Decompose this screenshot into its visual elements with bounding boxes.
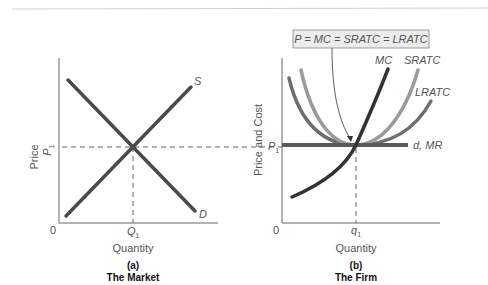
demand-curve (68, 80, 195, 211)
arrow-head-icon (347, 136, 353, 142)
origin-label: 0 (50, 224, 56, 236)
x-axis-label: Quantity (336, 242, 377, 254)
p1-label: P1 (41, 144, 55, 155)
firm-chart: P = MC = SRATC = LRATC MC SRATC LRATC d,… (252, 30, 450, 283)
caption-letter: (a) (127, 260, 139, 271)
q1-label: q1 (351, 224, 361, 238)
caption-letter: (b) (350, 260, 363, 271)
market-chart: S D Price P1 0 Q1 Quantity (a) The Marke… (28, 58, 282, 283)
origin-label: 0 (273, 224, 279, 236)
y-axis-label: Price (28, 144, 40, 169)
y-axis-label: Price and Cost (252, 104, 264, 176)
figure: S D Price P1 0 Q1 Quantity (a) The Marke… (0, 0, 488, 285)
lratc-label: LRATC (415, 86, 450, 98)
annotation-arrow (332, 48, 351, 140)
caption-title: The Firm (335, 272, 377, 283)
caption-title: The Market (107, 272, 160, 283)
mc-label: MC (375, 54, 392, 66)
sratc-label: SRATC (404, 54, 441, 66)
x-axis-label: Quantity (113, 242, 154, 254)
supply-label: S (194, 75, 202, 87)
annotation-text: P = MC = SRATC = LRATC (294, 33, 427, 45)
p1-label: P1 (268, 140, 279, 154)
q1-label: Q1 (127, 225, 140, 239)
demand-mr-label: d, MR (413, 139, 442, 151)
demand-label: D (199, 208, 207, 220)
supply-curve (66, 87, 191, 216)
top-rule (12, 8, 488, 9)
